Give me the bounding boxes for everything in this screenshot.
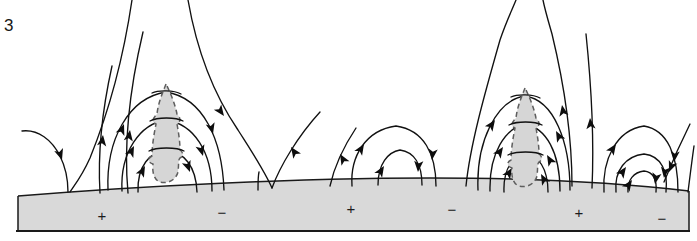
solar-surface: + − + − + −	[16, 178, 690, 231]
polarity-marker: −	[658, 210, 667, 227]
polarity-marker: +	[347, 200, 356, 217]
open-field-region-left	[22, 32, 143, 193]
open-field-region-center	[258, 112, 356, 190]
loop-pair-center	[352, 126, 438, 186]
arcade-left	[70, 0, 272, 192]
figure-panel: 3 + − + − + −	[0, 0, 697, 241]
magnetic-field-diagram: + − + − + −	[0, 0, 697, 241]
polarity-marker: −	[218, 204, 227, 221]
prominence-plume-left	[149, 84, 183, 183]
loop-nest-right	[604, 124, 694, 192]
prominence-plume-right	[508, 88, 542, 187]
polarity-marker: −	[448, 201, 457, 218]
polarity-marker: +	[98, 207, 107, 224]
arcade-right	[466, 0, 596, 192]
polarity-marker: +	[575, 204, 584, 221]
